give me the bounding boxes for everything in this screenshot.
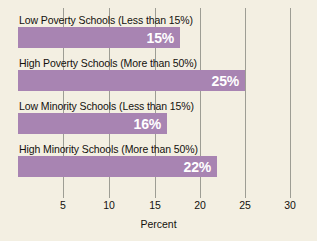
bar-group-low-poverty: Low Poverty Schools (Less than 15%) 15% xyxy=(18,14,193,48)
x-tick-label: 30 xyxy=(284,199,296,211)
x-tick-label: 25 xyxy=(239,199,251,211)
bar[interactable]: 16% xyxy=(18,113,167,134)
x-tick-mark xyxy=(109,190,110,198)
bar-value-label: 25% xyxy=(212,74,245,88)
gridline-25 xyxy=(245,8,246,190)
bar-category-label: Low Minority Schools (Less than 15%) xyxy=(18,100,194,112)
x-tick-label: 15 xyxy=(149,199,161,211)
x-tick-mark xyxy=(290,190,291,198)
plot-area: Low Poverty Schools (Less than 15%) 15% … xyxy=(0,0,317,190)
bar[interactable]: 25% xyxy=(18,70,245,91)
bar-value-label: 22% xyxy=(184,160,217,174)
x-tick-mark xyxy=(63,190,64,198)
bar-category-label: High Minority Schools (More than 50%) xyxy=(18,143,198,155)
x-tick-mark xyxy=(200,190,201,198)
gridline-30 xyxy=(290,8,291,190)
bar-track: 16% xyxy=(18,113,194,134)
x-tick-label: 20 xyxy=(194,199,206,211)
bar-chart: Low Poverty Schools (Less than 15%) 15% … xyxy=(0,0,317,241)
x-axis: 5 10 15 20 25 30 Percent xyxy=(0,190,317,241)
bar[interactable]: 15% xyxy=(18,27,180,48)
bar-track: 15% xyxy=(18,27,193,48)
bar-value-label: 16% xyxy=(134,117,167,131)
bar-group-high-poverty: High Poverty Schools (More than 50%) 25% xyxy=(18,57,197,91)
bar-group-low-minority: Low Minority Schools (Less than 15%) 16% xyxy=(18,100,194,134)
bar-category-label: High Poverty Schools (More than 50%) xyxy=(18,57,197,69)
x-tick-mark xyxy=(245,190,246,198)
bar-value-label: 15% xyxy=(147,31,180,45)
x-tick-label: 5 xyxy=(60,199,66,211)
bar[interactable]: 22% xyxy=(18,156,217,177)
x-tick-label: 10 xyxy=(103,199,115,211)
bar-track: 22% xyxy=(18,156,198,177)
x-tick-mark xyxy=(155,190,156,198)
bar-group-high-minority: High Minority Schools (More than 50%) 22… xyxy=(18,143,198,177)
bar-category-label: Low Poverty Schools (Less than 15%) xyxy=(18,14,193,26)
bar-track: 25% xyxy=(18,70,197,91)
x-axis-title: Percent xyxy=(0,218,317,230)
